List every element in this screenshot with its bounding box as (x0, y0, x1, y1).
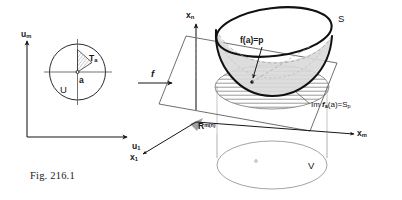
point-a-marker (76, 71, 79, 74)
image-point-label: f(a)=p (240, 36, 263, 45)
sector-label-Ta: Ta (89, 54, 97, 64)
axis-label-xn: xn (186, 11, 194, 21)
disc-label-U: U (60, 85, 67, 95)
region-label-V: V (308, 161, 314, 171)
surface-label-S: S (338, 14, 344, 24)
axis-xm (196, 122, 354, 134)
space-label-rmn: Rm(n) (198, 122, 216, 131)
right-panel-group (143, 1, 354, 189)
region-V-centre-dot (255, 160, 258, 163)
map-arrow-label-f: f (151, 69, 154, 79)
axis-label-um: um (21, 30, 31, 40)
axis-label-xm: xm (357, 129, 367, 139)
point-label-a: a (79, 76, 84, 85)
axis-x1 (143, 122, 196, 154)
tangent-image-label: Im fa(a)=Sp (311, 101, 351, 110)
figure-216-1: um u1 U Ta a f xn xm x1 S f(a)=p Im fa(a… (0, 0, 402, 200)
figure-caption: Fig. 216.1 (30, 170, 75, 181)
axis-label-x1: x1 (130, 153, 138, 163)
left-panel-group (27, 39, 127, 137)
axis-label-u1: u1 (132, 142, 140, 152)
